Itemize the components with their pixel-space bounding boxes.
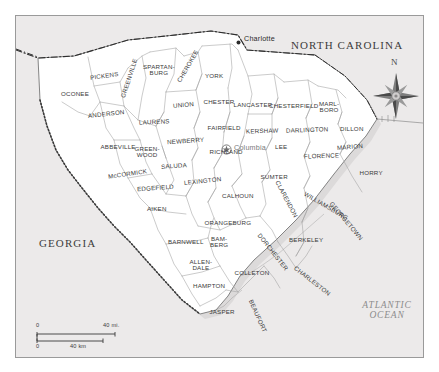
scale-km-max: 40 km bbox=[70, 344, 86, 350]
compass-rose: N bbox=[371, 58, 423, 120]
scale-km-zero: 0 bbox=[36, 344, 39, 350]
map-frame: Charlotte Columbia NORTH CAROLINA GEORGI… bbox=[15, 15, 424, 358]
capital-star-icon bbox=[221, 144, 232, 155]
scale-miles-max: 40 mi. bbox=[103, 323, 119, 329]
map-graphic bbox=[16, 16, 423, 357]
compass-star-icon bbox=[371, 71, 421, 121]
scale-bar: 0 40 mi. 0 40 km bbox=[35, 323, 140, 353]
compass-north-label: N bbox=[391, 58, 398, 67]
scale-miles-zero: 0 bbox=[36, 323, 39, 329]
charlotte-dot-icon bbox=[235, 39, 242, 46]
scale-bar-graphic bbox=[35, 332, 135, 344]
